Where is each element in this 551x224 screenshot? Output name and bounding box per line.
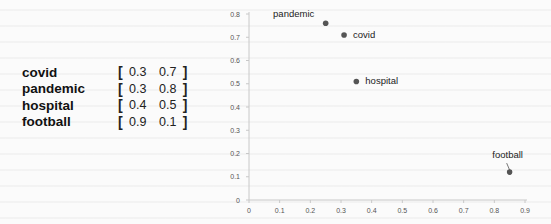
x-tick-label: 0: [247, 207, 251, 214]
y-tick-label: 0.1: [230, 173, 240, 180]
x-tick-label: 0.7: [459, 207, 469, 214]
point-label-pandemic: pandemic: [273, 8, 314, 19]
data-point-football: [507, 169, 513, 175]
x-tick-label: 0.4: [367, 207, 377, 214]
scatter-plot-svg: 00.10.20.30.40.50.60.70.800.10.20.30.40.…: [0, 0, 551, 224]
y-tick-label: 0.4: [230, 104, 240, 111]
x-tick-label: 0.1: [275, 207, 285, 214]
point-label-covid: covid: [353, 29, 375, 40]
x-tick-label: 0.9: [520, 207, 530, 214]
x-tick-label: 0.2: [305, 207, 315, 214]
x-tick-label: 0.8: [489, 207, 499, 214]
point-label-football: football: [492, 149, 523, 160]
data-point-hospital: [354, 79, 360, 85]
x-tick-label: 0.6: [428, 207, 438, 214]
data-point-covid: [341, 32, 347, 38]
point-label-hospital: hospital: [365, 75, 398, 86]
scatter-chart: 00.10.20.30.40.50.60.70.800.10.20.30.40.…: [0, 0, 551, 224]
y-tick-label: 0: [236, 197, 240, 204]
data-point-pandemic: [323, 21, 329, 27]
y-tick-label: 0.6: [230, 57, 240, 64]
y-tick-label: 0.7: [230, 34, 240, 41]
x-tick-label: 0.3: [336, 207, 346, 214]
y-tick-label: 0.8: [230, 11, 240, 18]
x-tick-label: 0.5: [397, 207, 407, 214]
label-leader-line: [507, 163, 510, 170]
y-tick-label: 0.2: [230, 150, 240, 157]
y-tick-label: 0.5: [230, 80, 240, 87]
y-tick-label: 0.3: [230, 127, 240, 134]
